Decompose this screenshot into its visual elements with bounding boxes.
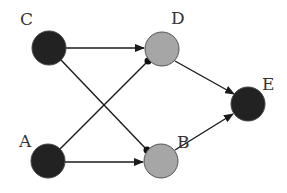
- edge-d-to-e: [175, 61, 234, 94]
- graph-diagram: C D E A B: [0, 0, 287, 193]
- node-b-label: B: [177, 132, 190, 152]
- node-e-label: E: [262, 74, 274, 94]
- node-c-label: C: [20, 9, 33, 29]
- node-b: [144, 144, 178, 178]
- node-d-label: D: [171, 8, 185, 28]
- node-e: [231, 87, 265, 121]
- node-d: [145, 32, 179, 66]
- node-a: [31, 144, 65, 178]
- node-a-label: A: [18, 131, 32, 151]
- node-c: [32, 31, 66, 65]
- edge-a-to-d: [60, 61, 148, 149]
